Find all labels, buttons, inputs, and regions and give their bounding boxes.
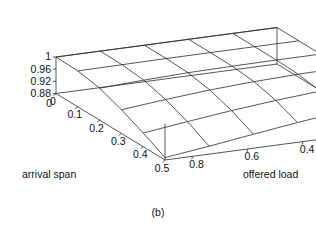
tick-label: 0.96 [31, 63, 52, 75]
mesh-row-line [78, 41, 299, 71]
mesh-row-line [165, 101, 316, 158]
mesh-col-line [233, 33, 316, 111]
tick-label: 0.5 [155, 162, 170, 174]
figure-container: 0.880.920.961000.10.20.30.40.50.80.60.40… [0, 0, 316, 230]
y-axis-title: offered load [243, 168, 298, 180]
surface-plot-3d: 0.880.920.961000.10.20.30.40.50.80.60.40… [0, 0, 316, 230]
axis-box [56, 28, 316, 161]
tick-label: 0 [50, 95, 56, 107]
tick-label: 0.92 [31, 75, 52, 87]
mesh-col-line [144, 45, 253, 134]
tick-label: 1 [45, 50, 51, 62]
tick-label: 0.2 [89, 122, 104, 134]
tick-label: 0.8 [189, 158, 204, 170]
x-axis-title: arrival span [22, 168, 76, 180]
tick-label: 0.4 [133, 148, 148, 160]
tick-label: 0.3 [111, 135, 126, 147]
mesh-row-line [56, 28, 277, 58]
figure-caption: (b) [152, 206, 165, 218]
mesh-col-line [189, 39, 298, 122]
tick-label: 0.1 [67, 108, 82, 120]
tick-label: 0.6 [245, 150, 260, 162]
mesh-row-line [143, 83, 316, 133]
mesh-row-line [121, 68, 316, 110]
tick-label: 0.4 [300, 143, 315, 155]
tick-marks [53, 57, 316, 162]
